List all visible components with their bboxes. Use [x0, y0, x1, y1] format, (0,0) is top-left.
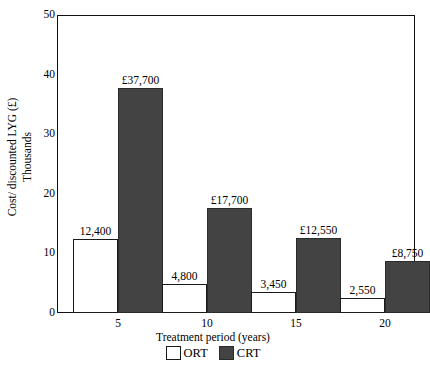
bar-ort-10[interactable]: [162, 284, 207, 313]
legend-swatch-crt-icon: [219, 346, 234, 360]
bar-label-ort-10: 4,800: [172, 270, 198, 282]
bars-layer: 12,400 £37,700 4,800 £17,700 3,450 £12,5…: [57, 15, 415, 313]
y-axis-tick-labels: 0 10 20 30 40 50: [28, 0, 55, 368]
chart-legend: ORT CRT: [0, 346, 426, 360]
bar-ort-5[interactable]: [73, 239, 118, 313]
legend-item-ort[interactable]: ORT: [166, 346, 208, 360]
bar-label-ort-15: 3,450: [261, 278, 287, 290]
x-axis-title: Treatment period (years): [0, 331, 426, 344]
y-tick-label-30: 30: [33, 128, 55, 140]
x-tick-label-15: 15: [290, 317, 302, 329]
bar-label-ort-20: 2,550: [350, 284, 376, 296]
bar-ort-15[interactable]: [251, 292, 296, 313]
y-tick-label-10: 10: [33, 248, 55, 260]
legend-label-ort: ORT: [184, 347, 208, 360]
legend-item-crt[interactable]: CRT: [219, 346, 261, 360]
bar-crt-15[interactable]: [296, 238, 341, 313]
x-tick-label-10: 10: [201, 317, 213, 329]
bar-label-crt-20: £8,750: [392, 247, 424, 259]
bar-label-crt-15: £12,550: [300, 224, 337, 236]
y-tick-label-0: 0: [33, 307, 55, 319]
y-axis-title-line1: Cost/ discounted LYG (£): [5, 97, 20, 216]
bar-crt-5[interactable]: [118, 88, 163, 313]
x-tick-label-5: 5: [115, 317, 121, 329]
x-tick-label-20: 20: [379, 317, 391, 329]
bar-ort-20[interactable]: [340, 298, 385, 313]
y-tick-label-50: 50: [33, 9, 55, 21]
bar-label-crt-5: £37,700: [122, 74, 159, 86]
y-tick-label-40: 40: [33, 69, 55, 81]
legend-swatch-ort-icon: [166, 346, 181, 360]
bar-crt-20[interactable]: [385, 261, 430, 313]
bar-label-ort-5: 12,400: [80, 225, 112, 237]
bar-label-crt-10: £17,700: [211, 194, 248, 206]
bar-crt-10[interactable]: [207, 208, 252, 314]
y-tick-label-20: 20: [33, 188, 55, 200]
legend-label-crt: CRT: [237, 347, 261, 360]
